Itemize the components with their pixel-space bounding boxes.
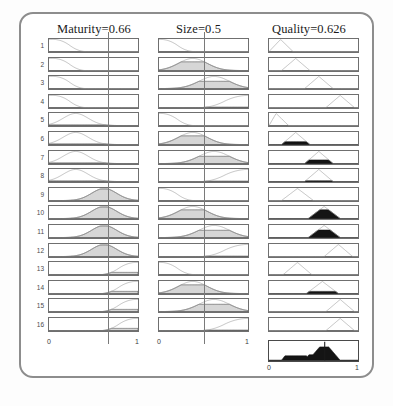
rule-cell-size-8[interactable] [158, 168, 249, 183]
rule-number-4: 4 [28, 94, 44, 109]
rule-cell-maturity-16[interactable] [48, 317, 139, 332]
rule-cell-quality-2 [268, 57, 359, 72]
rule-number-8: 8 [28, 168, 44, 183]
rule-number-5: 5 [28, 112, 44, 127]
rule-cell-size-15[interactable] [158, 298, 249, 313]
rule-cell-quality-6 [268, 131, 359, 146]
rule-cell-size-4[interactable] [158, 94, 249, 109]
rule-cell-size-6[interactable] [158, 131, 249, 146]
rule-cell-size-3[interactable] [158, 75, 249, 90]
rule-number-16: 16 [28, 317, 44, 332]
rule-cell-quality-9 [268, 187, 359, 202]
column-maturity[interactable] [48, 38, 139, 336]
rule-cell-quality-10 [268, 205, 359, 220]
axis-label-maturity-max: 1 [135, 338, 139, 345]
axis-label-output-max: 1 [355, 364, 359, 371]
rule-number-6: 6 [28, 131, 44, 146]
rule-number-15: 15 [28, 298, 44, 313]
rule-number-10: 10 [28, 205, 44, 220]
rule-cell-size-9[interactable] [158, 187, 249, 202]
rule-cell-maturity-4[interactable] [48, 94, 139, 109]
column-title-maturity: Maturity=0.66 [57, 22, 131, 37]
rule-cell-quality-5 [268, 112, 359, 127]
rule-number-12: 12 [28, 243, 44, 258]
rule-cell-maturity-1[interactable] [48, 38, 139, 53]
rule-cell-size-11[interactable] [158, 224, 249, 239]
rule-cell-maturity-15[interactable] [48, 298, 139, 313]
rule-cell-size-7[interactable] [158, 150, 249, 165]
rule-number-14: 14 [28, 280, 44, 295]
rule-number-2: 2 [28, 57, 44, 72]
rule-number-9: 9 [28, 187, 44, 202]
rule-cell-size-13[interactable] [158, 261, 249, 276]
rule-cell-maturity-7[interactable] [48, 150, 139, 165]
rule-cell-quality-1 [268, 38, 359, 53]
rule-cell-quality-3 [268, 75, 359, 90]
axis-label-size-min: 0 [157, 338, 161, 345]
rule-cell-quality-15 [268, 298, 359, 313]
rule-cell-quality-8 [268, 168, 359, 183]
rule-cell-size-5[interactable] [158, 112, 249, 127]
rule-number-3: 3 [28, 75, 44, 90]
rule-cell-quality-12 [268, 243, 359, 258]
rule-cell-maturity-11[interactable] [48, 224, 139, 239]
column-quality [268, 38, 359, 336]
column-title-quality: Quality=0.626 [272, 22, 346, 37]
rule-cell-size-12[interactable] [158, 243, 249, 258]
rule-number-7: 7 [28, 150, 44, 165]
rule-cell-maturity-2[interactable] [48, 57, 139, 72]
rule-cell-quality-11 [268, 224, 359, 239]
rule-cell-quality-14 [268, 280, 359, 295]
axis-label-size-max: 1 [245, 338, 249, 345]
rule-cell-maturity-6[interactable] [48, 131, 139, 146]
fuzzy-rule-viewer-screenshot: Maturity=0.66 Size=0.5 Quality=0.626 123… [0, 0, 393, 406]
column-title-size: Size=0.5 [176, 22, 221, 37]
axis-label-maturity-min: 0 [47, 338, 51, 345]
rule-number-1: 1 [28, 38, 44, 53]
axis-label-output-min: 0 [267, 364, 271, 371]
rule-cell-maturity-12[interactable] [48, 243, 139, 258]
page-caption-fragment [6, 396, 336, 404]
rule-cell-maturity-14[interactable] [48, 280, 139, 295]
rule-cell-maturity-5[interactable] [48, 112, 139, 127]
rule-cell-quality-13 [268, 261, 359, 276]
rule-cell-size-14[interactable] [158, 280, 249, 295]
rule-cell-quality-7 [268, 150, 359, 165]
rule-cell-size-2[interactable] [158, 57, 249, 72]
rule-cell-maturity-8[interactable] [48, 168, 139, 183]
rule-cell-size-1[interactable] [158, 38, 249, 53]
rule-cell-maturity-10[interactable] [48, 205, 139, 220]
column-size[interactable] [158, 38, 249, 336]
rule-number-gutter: 12345678910111213141516 [28, 38, 44, 336]
rule-number-13: 13 [28, 261, 44, 276]
rule-cell-quality-16 [268, 317, 359, 332]
aggregate-output-panel [268, 340, 359, 362]
rule-number-11: 11 [28, 224, 44, 239]
rule-cell-maturity-13[interactable] [48, 261, 139, 276]
rule-cell-quality-4 [268, 94, 359, 109]
rule-cell-maturity-9[interactable] [48, 187, 139, 202]
rule-cell-maturity-3[interactable] [48, 75, 139, 90]
rule-cell-size-16[interactable] [158, 317, 249, 332]
rule-cell-size-10[interactable] [158, 205, 249, 220]
